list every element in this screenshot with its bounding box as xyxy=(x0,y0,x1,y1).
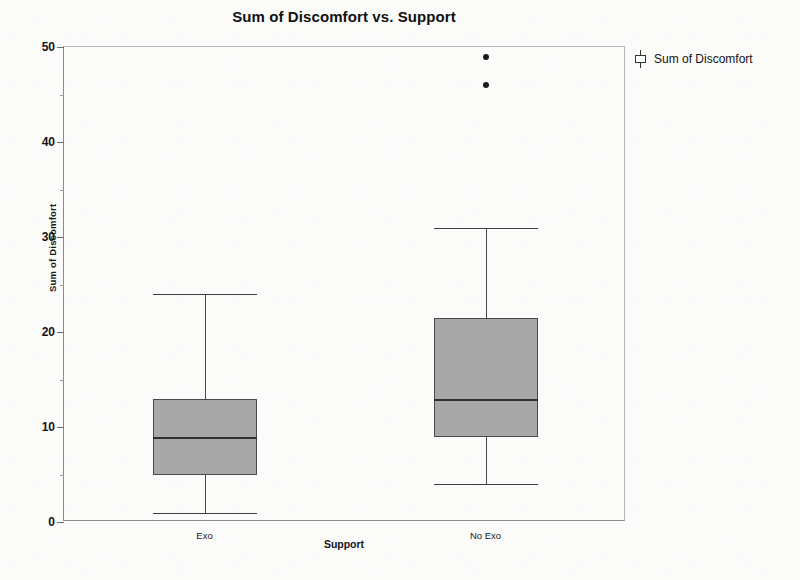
lower-whisker-line xyxy=(486,437,487,485)
chart-title: Sum of Discomfort vs. Support xyxy=(63,8,625,25)
chart-legend: Sum of Discomfort xyxy=(634,50,753,68)
boxplot-chart: Sum of Discomfort vs. Support Sum of Dis… xyxy=(0,0,800,580)
y-tick-label: 20 xyxy=(42,325,55,339)
plot-area: Sum of Discomfort 01020304050 ExoNo Exo xyxy=(63,46,625,521)
y-tick-label: 30 xyxy=(42,230,55,244)
lower-whisker-cap xyxy=(434,484,538,485)
upper-whisker-cap xyxy=(434,228,538,229)
y-tick-label: 0 xyxy=(48,515,55,529)
outlier-point xyxy=(483,82,489,88)
upper-whisker-line xyxy=(486,228,487,318)
y-tick-major xyxy=(57,237,64,238)
median-line xyxy=(434,399,538,401)
y-tick-label: 40 xyxy=(42,135,55,149)
boxplot-no-exo xyxy=(64,47,626,522)
boxplot-glyph-icon xyxy=(634,50,647,68)
y-tick-major xyxy=(57,142,64,143)
legend-entry-label: Sum of Discomfort xyxy=(654,52,753,66)
outlier-point xyxy=(483,54,489,60)
y-axis-title: Sum of Discomfort xyxy=(47,204,58,292)
x-axis-title: Support xyxy=(63,538,625,550)
y-tick-label: 10 xyxy=(42,420,55,434)
y-tick-major xyxy=(57,332,64,333)
y-tick-major xyxy=(57,427,64,428)
y-tick-major xyxy=(57,47,64,48)
y-tick-label: 50 xyxy=(42,40,55,54)
iqr-box xyxy=(434,318,538,437)
y-tick-major xyxy=(57,522,64,523)
